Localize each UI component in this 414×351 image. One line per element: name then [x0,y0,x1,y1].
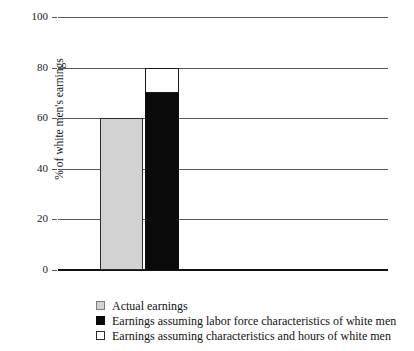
legend-item[interactable]: Earnings assuming characteristics and ho… [96,328,406,343]
y-axis-tick [52,219,57,220]
y-axis-tick-label: 0 [0,264,48,275]
legend-swatch-gray-icon [96,301,105,310]
y-axis-tick-label: 60 [0,112,48,123]
y-axis-tick-label: 100 [0,11,48,22]
bar-segment [145,93,179,270]
bar-segment [145,68,179,93]
y-axis-tick-label: 40 [0,163,48,174]
plot-area: % of white men's earnings 100806040200 [58,17,388,270]
bar-segment [100,118,143,270]
legend-item[interactable]: Earnings assuming labor force characteri… [96,313,406,328]
legend-item-label: Earnings assuming labor force characteri… [112,314,396,328]
legend-swatch-white-icon [96,331,105,340]
y-axis-tick [52,118,57,119]
actual-earnings-bar [100,17,143,270]
y-axis-tick [52,68,57,69]
y-axis-tick [52,169,57,170]
y-axis-title: % of white men's earnings [53,0,65,249]
y-axis-tick [52,270,57,271]
legend-item[interactable]: Actual earnings [96,298,406,313]
y-axis-tick-label: 80 [0,62,48,73]
chart-legend: Actual earnings Earnings assuming labor … [96,298,406,343]
legend-item-label: Earnings assuming characteristics and ho… [112,329,391,343]
legend-item-label: Actual earnings [112,299,188,313]
bar-chart: % of white men's earnings 100806040200 A… [0,0,414,351]
y-axis-tick [52,17,57,18]
legend-swatch-black-icon [96,316,105,325]
adjusted-earnings-bar [145,17,179,270]
y-axis-tick-label: 20 [0,213,48,224]
